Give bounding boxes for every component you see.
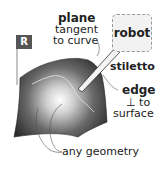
leader-edge bbox=[103, 75, 118, 90]
stiletto-label: stiletto bbox=[110, 61, 155, 72]
geometry-label: any geometry bbox=[62, 146, 139, 157]
robot-label: robot bbox=[114, 26, 151, 40]
robot-box: robot bbox=[112, 14, 152, 52]
plane-line3: to curve bbox=[53, 35, 98, 46]
flag-r: R bbox=[16, 35, 32, 49]
edge-label: edge bbox=[122, 84, 155, 96]
edge-surface-label: surface bbox=[113, 108, 154, 119]
curved-surface bbox=[14, 58, 107, 137]
